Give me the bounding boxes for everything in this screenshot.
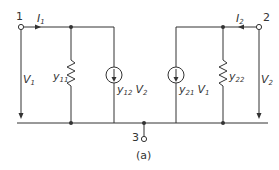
v1-arrowhead-icon: [19, 113, 24, 119]
admittance-y11-label: y11: [52, 70, 68, 84]
voltage-v1-label: V1: [23, 73, 35, 87]
terminal-2: [256, 24, 261, 29]
terminal-2-label: 2: [263, 11, 270, 24]
junction-dot: [221, 121, 225, 125]
terminal-3: [141, 136, 146, 141]
junction-dot: [69, 121, 73, 125]
v2-arrowhead-icon: [257, 113, 262, 119]
two-port-y-parameter-circuit: 1 2 3 I1 I2 V1 V2 y11 y22 y12V2 y21V1 (a…: [0, 0, 279, 170]
source-arrow-down-icon: [174, 77, 179, 82]
current-i1-label: I1: [37, 12, 45, 26]
junction-dot: [142, 121, 146, 125]
source-y21v1-label: y21V1: [178, 83, 209, 97]
figure-caption: (a): [136, 149, 151, 162]
terminal-1: [18, 24, 23, 29]
current-i2-label: I2: [236, 12, 244, 26]
resistor-y22: [219, 60, 227, 86]
source-y12v2-label: y12V2: [116, 83, 148, 97]
source-arrow-down-icon: [112, 77, 117, 82]
terminal-1-label: 1: [16, 10, 23, 23]
voltage-v2-label: V2: [261, 73, 274, 87]
junction-dot: [69, 25, 73, 29]
admittance-y22-label: y22: [228, 70, 245, 84]
terminal-3-label: 3: [132, 131, 139, 144]
junction-dot: [221, 25, 225, 29]
